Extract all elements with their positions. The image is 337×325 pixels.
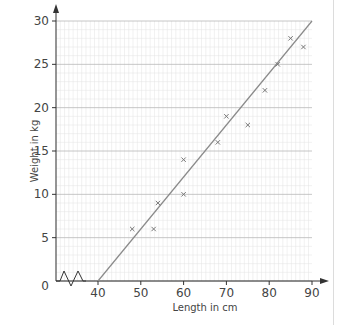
tick-labels: 510152025304050607080900 bbox=[34, 14, 320, 300]
x-tick-label: 90 bbox=[304, 286, 319, 300]
origin-label: 0 bbox=[41, 279, 49, 293]
scatter-chart: 510152025304050607080900 Length in cm We… bbox=[0, 0, 337, 325]
x-tick-label: 60 bbox=[176, 286, 191, 300]
axes bbox=[52, 4, 329, 286]
x-tick-label: 70 bbox=[219, 286, 234, 300]
x-tick-label: 80 bbox=[262, 286, 277, 300]
y-axis-arrow-icon bbox=[53, 4, 59, 13]
y-tick-label: 20 bbox=[34, 101, 49, 115]
y-tick-label: 5 bbox=[41, 231, 49, 245]
x-axis-arrow-icon bbox=[320, 278, 329, 284]
graph-paper-grid bbox=[56, 21, 312, 281]
x-axis-title: Length in cm bbox=[172, 302, 237, 313]
y-axis-title: Weight in kg bbox=[29, 120, 40, 182]
y-tick-label: 10 bbox=[34, 187, 49, 201]
x-tick-label: 40 bbox=[90, 286, 105, 300]
y-tick-label: 30 bbox=[34, 14, 49, 28]
y-tick-label: 25 bbox=[34, 57, 49, 71]
x-tick-label: 50 bbox=[133, 286, 148, 300]
